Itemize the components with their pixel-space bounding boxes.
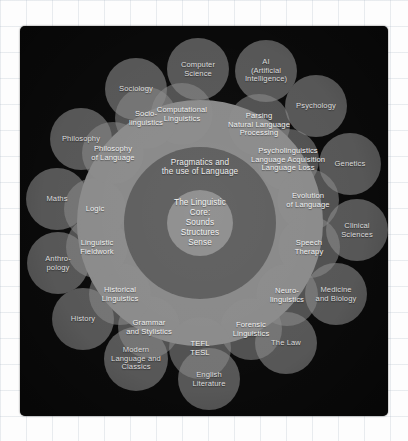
diagram-panel: Computer ScienceAI (Artificial Intellige…	[20, 26, 388, 416]
inner-lobe-11[interactable]	[64, 178, 126, 240]
core-disc[interactable]	[167, 190, 233, 256]
outer-lobe-1[interactable]	[235, 40, 297, 102]
outer-lobe-2[interactable]	[285, 75, 347, 137]
linguistics-diagram	[20, 26, 388, 416]
inner-lobe-13[interactable]	[115, 87, 177, 149]
linguistic-core	[167, 190, 233, 256]
